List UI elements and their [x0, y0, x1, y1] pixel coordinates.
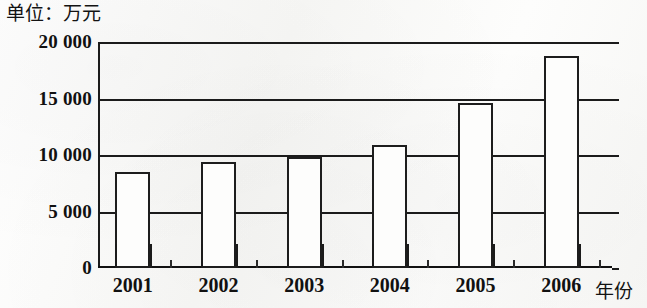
gridline-10000: [98, 155, 612, 157]
y-axis-label-20000: 20 000: [39, 31, 92, 53]
x-axis-title: 年份: [595, 276, 633, 303]
x-tick-minor-2004: [427, 260, 429, 268]
x-axis-line: [98, 266, 612, 268]
y-tick-0: [612, 268, 619, 270]
y-tick-5000: [612, 212, 619, 214]
y-axis-label-5000: 5 000: [48, 200, 92, 222]
gridline-15000: [98, 99, 612, 101]
x-tick-minor-2005: [513, 260, 515, 268]
bar-2003: [287, 157, 322, 268]
y-tick-15000: [612, 99, 619, 101]
x-tick-major-2002-0: [201, 244, 203, 268]
gridline-20000: [98, 42, 612, 44]
y-tick-10000: [612, 155, 619, 157]
bar-2002: [201, 162, 236, 268]
x-axis-label-2003: 2003: [284, 274, 324, 297]
bar-2001: [115, 172, 150, 268]
x-axis-label-2005: 2005: [456, 274, 496, 297]
x-axis-label-2001: 2001: [113, 274, 153, 297]
x-tick-major-2005-1: [493, 244, 495, 268]
x-tick-major-2006-1: [579, 244, 581, 268]
y-axis-label-0: 0: [82, 257, 92, 279]
x-tick-major-2001-1: [150, 244, 152, 268]
y-axis-labels: 05 00010 00015 00020 000: [0, 42, 92, 268]
x-tick-major-2003-0: [287, 244, 289, 268]
x-axis-label-2004: 2004: [370, 274, 410, 297]
x-tick-minor-2002: [256, 260, 258, 268]
bar-2004: [372, 145, 407, 268]
bar-2006: [544, 56, 579, 268]
x-axis-label-2006: 2006: [541, 274, 581, 297]
x-tick-major-2004-0: [372, 244, 374, 268]
x-tick-minor-2006: [599, 260, 601, 268]
chart-unit-caption: 单位：万元: [6, 2, 101, 24]
x-tick-major-2002-1: [236, 244, 238, 268]
bar-chart-figure: 单位：万元 05 00010 00015 00020 000 200120022…: [0, 0, 647, 308]
y-tick-20000: [612, 42, 619, 44]
x-tick-major-2003-1: [322, 244, 324, 268]
x-tick-minor-2001: [170, 260, 172, 268]
x-tick-major-2006-0: [544, 244, 546, 268]
y-axis-label-10000: 10 000: [39, 144, 92, 166]
x-tick-minor-2003: [342, 260, 344, 268]
bar-2005: [458, 103, 493, 268]
y-axis-label-15000: 15 000: [39, 87, 92, 109]
x-tick-major-2001-0: [115, 244, 117, 268]
x-tick-major-2005-0: [458, 244, 460, 268]
x-tick-major-2004-1: [407, 244, 409, 268]
x-axis-labels: 200120022003200420052006: [98, 274, 612, 304]
plot-area: [98, 42, 612, 268]
x-axis-label-2002: 2002: [199, 274, 239, 297]
gridline-5000: [98, 212, 612, 214]
